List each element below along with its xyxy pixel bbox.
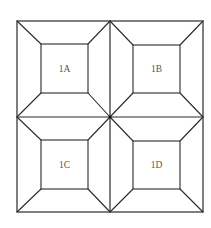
corner-diagonal-line bbox=[17, 189, 41, 212]
corner-diagonal-line bbox=[110, 93, 133, 117]
panel-1d: 1D bbox=[110, 117, 203, 212]
corner-diagonal-line bbox=[88, 93, 110, 117]
corner-diagonal-line bbox=[110, 189, 133, 212]
panel-1c: 1C bbox=[17, 117, 110, 212]
panel-label-1c: 1C bbox=[59, 160, 70, 170]
panel-label-1a: 1A bbox=[59, 64, 71, 74]
corner-diagonal-line bbox=[110, 21, 133, 45]
panel-label-1b: 1B bbox=[151, 64, 162, 74]
corner-diagonal-line bbox=[180, 21, 203, 45]
center-point bbox=[109, 116, 112, 119]
corner-diagonal-line bbox=[180, 117, 203, 141]
corner-diagonal-line bbox=[88, 189, 110, 212]
panel-label-1d: 1D bbox=[151, 160, 163, 170]
corner-diagonal-line bbox=[17, 93, 41, 117]
corner-diagonal-line bbox=[88, 117, 110, 140]
corner-diagonal-line bbox=[110, 117, 133, 141]
panel-1a: 1A bbox=[17, 21, 110, 117]
corner-diagonal-line bbox=[180, 93, 203, 117]
panel-1b: 1B bbox=[110, 21, 203, 117]
corner-diagonal-line bbox=[17, 21, 41, 44]
corner-diagonal-line bbox=[88, 21, 110, 44]
corner-diagonal-line bbox=[17, 117, 41, 140]
corner-diagonal-line bbox=[180, 189, 203, 212]
quilt-diagram: 1A1B1C1D bbox=[0, 0, 211, 228]
